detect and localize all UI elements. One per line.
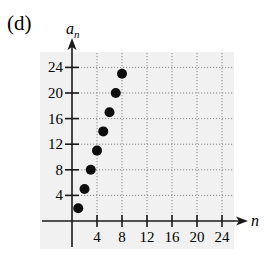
x-axis-label: n [251, 212, 259, 229]
y-tick-label: 20 [48, 85, 63, 101]
panel-label: (d) [7, 11, 32, 35]
y-tick-label: 16 [48, 111, 64, 127]
sequence-scatter-chart: 48121620244812162024 (d) an n [0, 0, 264, 260]
data-point [117, 69, 127, 79]
x-tick-label: 20 [190, 229, 205, 245]
x-tick-label: 4 [93, 229, 101, 245]
data-point [111, 88, 121, 98]
data-point [98, 126, 108, 136]
data-point [86, 165, 96, 175]
y-axis-label: an [66, 20, 80, 40]
x-tick-label: 16 [165, 229, 181, 245]
data-point [105, 107, 115, 117]
y-tick-label: 8 [56, 162, 64, 178]
x-tick-label: 8 [118, 229, 126, 245]
plot-background [40, 52, 234, 249]
data-point [80, 184, 90, 194]
data-point [73, 203, 83, 213]
x-tick-label: 24 [215, 229, 231, 245]
y-tick-label: 12 [48, 136, 63, 152]
data-point [92, 146, 102, 156]
y-tick-label: 4 [56, 187, 64, 203]
y-tick-label: 24 [48, 59, 64, 75]
x-tick-label: 12 [140, 229, 155, 245]
